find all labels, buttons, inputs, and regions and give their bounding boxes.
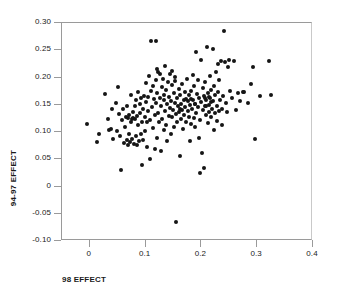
- data-point: [234, 108, 238, 112]
- data-point: [148, 118, 152, 122]
- x-tick-label: 0.1: [130, 250, 160, 258]
- data-point: [197, 136, 201, 140]
- data-point: [188, 139, 192, 143]
- data-point: [159, 104, 163, 108]
- data-point: [170, 83, 174, 87]
- data-point: [154, 39, 158, 43]
- data-point: [149, 89, 153, 93]
- data-point: [155, 136, 159, 140]
- x-tick-label: 0.3: [241, 250, 271, 258]
- data-point: [139, 132, 143, 136]
- data-point: [216, 90, 220, 94]
- data-point: [162, 128, 166, 132]
- data-point: [225, 110, 229, 114]
- data-point: [146, 109, 150, 113]
- data-point: [201, 108, 205, 112]
- y-tick-mark: [54, 22, 61, 23]
- y-tick-mark: [54, 186, 61, 187]
- data-point: [196, 105, 200, 109]
- data-point: [85, 122, 89, 126]
- x-tick-label: 0.4: [297, 250, 327, 258]
- data-point: [146, 95, 150, 99]
- data-point: [222, 29, 226, 33]
- data-point: [200, 151, 204, 155]
- data-point: [180, 82, 184, 86]
- data-point: [193, 125, 197, 129]
- data-point: [228, 89, 232, 93]
- x-tick-mark: [312, 240, 313, 247]
- data-point: [178, 154, 182, 158]
- x-tick-mark: [200, 240, 201, 247]
- data-point: [192, 84, 196, 88]
- data-point: [178, 107, 182, 111]
- data-point: [114, 101, 118, 105]
- data-point: [144, 81, 148, 85]
- data-point: [213, 111, 217, 115]
- data-point: [119, 168, 123, 172]
- data-point: [140, 120, 144, 124]
- data-point: [190, 107, 194, 111]
- data-point: [127, 132, 131, 136]
- data-point: [172, 91, 176, 95]
- data-point: [189, 89, 193, 93]
- data-point: [198, 118, 202, 122]
- data-point: [147, 74, 151, 78]
- data-point: [154, 101, 158, 105]
- data-point: [138, 111, 142, 115]
- data-point: [208, 74, 212, 78]
- y-tick-label: 0.05: [35, 154, 51, 162]
- data-point: [110, 107, 114, 111]
- y-tick-mark: [54, 104, 61, 105]
- data-point: [160, 117, 164, 121]
- data-point: [160, 85, 164, 89]
- data-point: [133, 117, 137, 121]
- data-point: [118, 134, 122, 138]
- data-point: [183, 90, 187, 94]
- y-axis-title: 94-97 EFFECT: [9, 150, 18, 206]
- x-tick-mark: [256, 240, 257, 247]
- data-point: [253, 137, 257, 141]
- data-point: [120, 118, 124, 122]
- data-point: [246, 101, 250, 105]
- x-tick-label: 0: [74, 250, 104, 258]
- data-point: [131, 110, 135, 114]
- data-point: [145, 145, 149, 149]
- data-point: [199, 58, 203, 62]
- data-point: [137, 139, 141, 143]
- data-point: [212, 128, 216, 132]
- data-point: [143, 115, 147, 119]
- x-tick-label: 0.2: [185, 250, 215, 258]
- x-axis-title: 98 EFFECT: [62, 275, 106, 284]
- data-point: [232, 59, 236, 63]
- data-point: [163, 64, 167, 68]
- y-tick-mark: [54, 131, 61, 132]
- y-tick-label: 0.30: [35, 18, 51, 26]
- data-point: [148, 157, 152, 161]
- y-tick-mark: [54, 240, 61, 241]
- data-point: [156, 111, 160, 115]
- data-point: [224, 101, 228, 105]
- data-point: [223, 60, 227, 64]
- data-point: [218, 98, 222, 102]
- data-point: [209, 115, 213, 119]
- data-point: [169, 132, 173, 136]
- data-point: [161, 77, 165, 81]
- data-point: [196, 78, 200, 82]
- data-point: [141, 138, 145, 142]
- y-tick-mark: [54, 158, 61, 159]
- data-point: [203, 80, 207, 84]
- data-point: [221, 94, 225, 98]
- data-point: [226, 65, 230, 69]
- data-point: [178, 93, 182, 97]
- data-point: [217, 78, 221, 82]
- data-point: [177, 87, 181, 91]
- data-point: [123, 125, 127, 129]
- data-point: [187, 115, 191, 119]
- data-point: [236, 91, 240, 95]
- data-point: [162, 93, 166, 97]
- data-point: [135, 143, 139, 147]
- y-tick-mark: [54, 49, 61, 50]
- data-point: [136, 90, 140, 94]
- data-point: [215, 119, 219, 123]
- data-point: [204, 104, 208, 108]
